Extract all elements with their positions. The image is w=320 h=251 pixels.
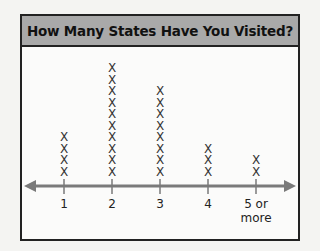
x-marker: X [204, 167, 212, 179]
plot-area: XXXX XXXXXXXXXX XXXXXXXX XXX XX 1 2 3 4 … [22, 47, 298, 239]
data-column-5-or-more: XX [249, 155, 263, 178]
tick-label-5-or: 5 or [236, 198, 276, 211]
data-column-3: XXXXXXXX [153, 86, 167, 178]
tick-label-2: 2 [92, 198, 132, 211]
left-arrow-icon [24, 180, 36, 192]
chart-title: How Many States Have You Visited? [27, 23, 293, 39]
chart-frame: How Many States Have You Visited? XXXX X… [20, 14, 300, 241]
tick-label-4: 4 [188, 198, 228, 211]
data-column-2: XXXXXXXXXX [105, 63, 119, 178]
x-marker: X [108, 167, 116, 179]
x-marker: X [252, 167, 260, 179]
data-column-1: XXXX [57, 132, 71, 178]
right-arrow-icon [284, 180, 296, 192]
chart-header: How Many States Have You Visited? [22, 16, 298, 47]
data-column-4: XXX [201, 144, 215, 179]
tick-label-3: 3 [140, 198, 180, 211]
x-marker: X [156, 167, 164, 179]
tick-label-more: more [236, 212, 276, 225]
tick-label-1: 1 [44, 198, 84, 211]
x-marker: X [60, 167, 68, 179]
